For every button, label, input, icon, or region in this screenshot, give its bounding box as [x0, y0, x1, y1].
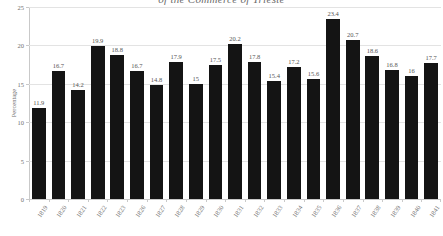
- x-tick-label: 1834: [290, 204, 303, 219]
- x-tick-label: 1831: [232, 204, 245, 219]
- bar-value-label: 11.9: [33, 99, 44, 106]
- x-tick-mark: [225, 199, 226, 202]
- x-tick-label: 1835: [310, 204, 323, 219]
- bar-value-label: 16.8: [386, 61, 397, 68]
- bar[interactable]: [91, 46, 105, 199]
- bar-slot: 17.5: [206, 7, 226, 199]
- bar-slot: 17.9: [166, 7, 186, 199]
- bar-slot: 17.2: [284, 7, 304, 199]
- x-axis-ticks: 1819182018211822182318261827182818291830…: [29, 199, 441, 236]
- x-tick-label: 1838: [369, 204, 382, 219]
- x-tick-mark: [107, 199, 108, 202]
- x-tick-mark: [49, 199, 50, 202]
- bar[interactable]: [189, 84, 203, 199]
- x-tick-mark: [323, 199, 324, 202]
- x-tick-mark: [29, 199, 30, 202]
- bar[interactable]: [248, 62, 262, 199]
- x-tick-mark: [284, 199, 285, 202]
- bar-slot: 11.9: [29, 7, 49, 199]
- x-tick-label: 1819: [35, 204, 48, 219]
- bar[interactable]: [130, 71, 144, 199]
- bar-slot: 16.7: [49, 7, 69, 199]
- x-tick-label: 1830: [212, 204, 225, 219]
- bar[interactable]: [169, 62, 183, 199]
- x-tick-mark: [304, 199, 305, 202]
- bar-slot: 16.8: [382, 7, 402, 199]
- x-tick-mark: [186, 199, 187, 202]
- bar-value-label: 17.7: [425, 54, 436, 61]
- bar[interactable]: [326, 19, 340, 199]
- x-tick-label: 1821: [75, 204, 88, 219]
- bar-value-label: 20.2: [229, 35, 240, 42]
- bar-value-label: 19.9: [92, 37, 103, 44]
- bar[interactable]: [267, 81, 281, 199]
- y-tick-label: 25: [18, 4, 30, 11]
- bar-slot: 20.2: [225, 7, 245, 199]
- x-tick-label: 1822: [94, 204, 107, 219]
- x-tick-mark: [127, 199, 128, 202]
- bar[interactable]: [228, 44, 242, 199]
- bar-value-label: 17.9: [170, 53, 181, 60]
- y-axis-label-container: Percentage: [2, 7, 12, 199]
- bar[interactable]: [424, 63, 438, 199]
- bar-value-label: 18.8: [112, 46, 123, 53]
- bar-value-label: 17.8: [249, 53, 260, 60]
- bar-value-label: 14.8: [151, 76, 162, 83]
- x-tick-label: 1826: [133, 204, 146, 219]
- x-tick-mark: [440, 199, 441, 202]
- bar[interactable]: [71, 90, 85, 199]
- x-tick-mark: [382, 199, 383, 202]
- y-tick-label: 0: [21, 196, 29, 203]
- chart-title: of the Commerce of Trieste: [0, 0, 443, 5]
- x-tick-mark: [264, 199, 265, 202]
- x-tick-mark: [166, 199, 167, 202]
- bar-slot: 19.9: [88, 7, 108, 199]
- x-tick-label: 1829: [192, 204, 205, 219]
- x-tick-mark: [363, 199, 364, 202]
- bar-slot: 18.6: [363, 7, 383, 199]
- bar[interactable]: [287, 67, 301, 199]
- x-tick-label: 1841: [428, 204, 441, 219]
- bar-slot: 20.7: [343, 7, 363, 199]
- bar-value-label: 20.7: [347, 31, 358, 38]
- x-tick-mark: [206, 199, 207, 202]
- bar[interactable]: [346, 40, 360, 199]
- bar[interactable]: [405, 76, 419, 199]
- bar-value-label: 23.4: [327, 10, 338, 17]
- x-tick-label: 1837: [349, 204, 362, 219]
- bar-value-label: 15.4: [269, 72, 280, 79]
- y-tick-label: 10: [18, 119, 30, 126]
- bar-slot: 17.8: [245, 7, 265, 199]
- x-tick-label: 1828: [173, 204, 186, 219]
- bar-value-label: 17.5: [210, 56, 221, 63]
- bar[interactable]: [209, 65, 223, 199]
- x-tick-label: 1840: [408, 204, 421, 219]
- bar-value-label: 16: [408, 67, 415, 74]
- x-tick-label: 1836: [330, 204, 343, 219]
- bar-value-label: 16.7: [131, 62, 142, 69]
- bar[interactable]: [32, 108, 46, 199]
- bar-value-label: 14.2: [72, 81, 83, 88]
- bar-value-label: 17.2: [288, 58, 299, 65]
- bar-slot: 23.4: [323, 7, 343, 199]
- bar-slot: 17.7: [421, 7, 441, 199]
- x-tick-mark: [68, 199, 69, 202]
- x-tick-label: 1823: [114, 204, 127, 219]
- x-tick-mark: [88, 199, 89, 202]
- x-tick-label: 1820: [55, 204, 68, 219]
- bar[interactable]: [365, 56, 379, 199]
- chart-figure: of the Commerce of Trieste Percentage 05…: [0, 0, 443, 236]
- bar-slot: 15.6: [304, 7, 324, 199]
- bar-value-label: 15: [192, 75, 199, 82]
- bar[interactable]: [307, 79, 321, 199]
- x-tick-mark: [147, 199, 148, 202]
- bar-slot: 16: [402, 7, 422, 199]
- y-tick-label: 5: [21, 157, 29, 164]
- bar[interactable]: [150, 85, 164, 199]
- bar[interactable]: [110, 55, 124, 199]
- bar[interactable]: [385, 70, 399, 199]
- bar-slot: 18.8: [107, 7, 127, 199]
- bar[interactable]: [52, 71, 66, 199]
- x-tick-mark: [245, 199, 246, 202]
- x-tick-label: 1833: [271, 204, 284, 219]
